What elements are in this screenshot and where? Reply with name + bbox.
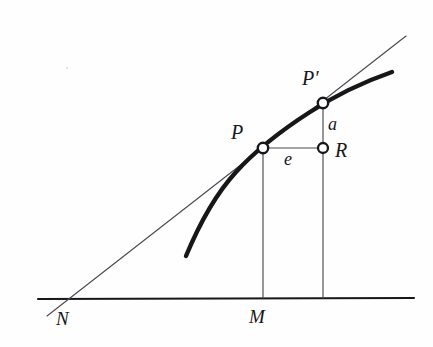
point-marker-r [318,143,328,153]
baseline-axis [38,298,414,299]
tangent-line [47,36,406,316]
label-segment-a: a [328,115,337,133]
geometry-diagram: P P′ R a e M N [0,0,433,347]
label-point-p-prime: P′ [302,68,319,88]
label-point-r: R [335,140,347,160]
paper-speck [66,67,68,69]
label-point-p: P [231,122,243,142]
label-intercept-n: N [56,309,69,328]
point-marker-p-prime [318,98,328,108]
label-foot-m: M [249,307,265,326]
point-marker-p [258,143,268,153]
label-segment-e: e [284,150,292,168]
diagram-canvas [0,0,433,347]
